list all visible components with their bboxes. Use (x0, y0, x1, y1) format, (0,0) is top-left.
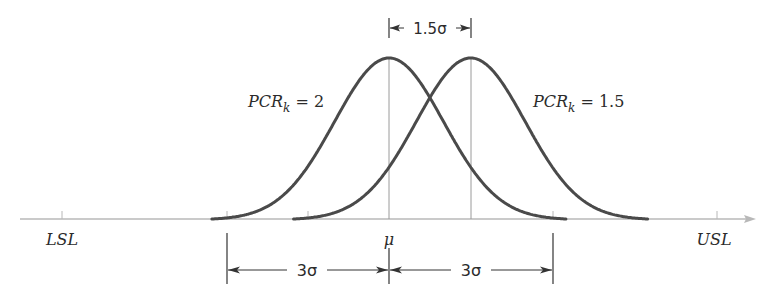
curve2-label-sub: k (568, 101, 575, 115)
curve1-label: PCRk = 2 (247, 92, 324, 115)
left-span-label: 3σ (297, 261, 317, 280)
curve2-label-value: = 1.5 (575, 92, 624, 111)
mu-label: μ (384, 230, 394, 249)
lsl-label: LSL (45, 230, 78, 249)
usl-label: USL (696, 230, 731, 249)
curve2-label-main: PCR (532, 92, 568, 111)
process-capability-diagram: 1.5σ 3σ 3σ LSL μ USL PCRk = 2 PCRk = 1.5 (0, 0, 784, 299)
shift-label: 1.5σ (413, 20, 447, 38)
curve1-label-sub: k (283, 101, 290, 115)
right-span-label: 3σ (461, 261, 481, 280)
curve1-label-value: = 2 (290, 92, 324, 111)
curve2-label: PCRk = 1.5 (532, 92, 624, 115)
curve1-label-main: PCR (247, 92, 283, 111)
